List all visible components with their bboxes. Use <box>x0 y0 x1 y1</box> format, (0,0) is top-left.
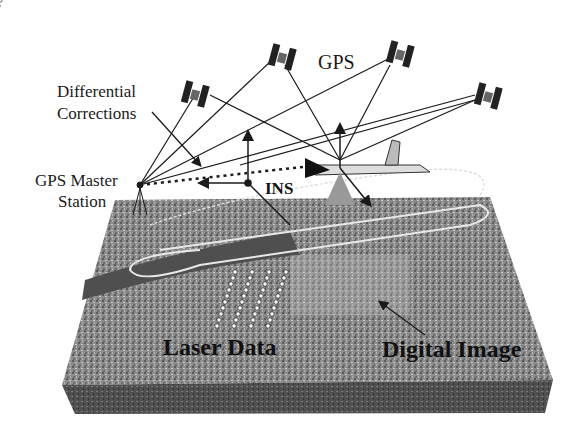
lidar-system-diagram <box>0 0 584 443</box>
ins-label: INS <box>265 180 293 197</box>
master-station-label-1: GPS Master <box>35 172 118 189</box>
master-station-label-2: Station <box>58 193 106 210</box>
gps-label: GPS <box>318 52 355 72</box>
differential-label-1: Differential <box>57 83 136 100</box>
laser-beam <box>325 172 355 205</box>
differential-label-2: Corrections <box>57 105 136 122</box>
aircraft <box>305 125 430 205</box>
digital-image-label: Digital Image <box>382 337 521 361</box>
digital-image-region <box>290 255 410 315</box>
laser-data-label: Laser Data <box>163 335 277 359</box>
